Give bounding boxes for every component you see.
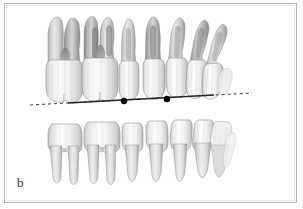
tooth-lower-canine — [170, 120, 192, 181]
tooth-upper-molar-1 — [46, 17, 83, 103]
tooth-upper-canine — [166, 18, 188, 98]
landmark-point-1 — [121, 98, 127, 104]
tooth-upper-premolar-2 — [143, 17, 165, 100]
tooth-lower-incisor-1 — [193, 120, 215, 178]
tooth-lower-premolar-1 — [122, 123, 143, 181]
mandibular-arch — [48, 104, 236, 185]
tooth-lower-molar-1 — [48, 104, 82, 185]
panel-label: b — [17, 176, 24, 189]
tooth-lower-molar-2 — [84, 122, 120, 185]
figure-panel: b — [0, 0, 303, 209]
landmark-point-2 — [164, 96, 170, 102]
tooth-upper-molar-2 — [82, 17, 118, 102]
dentition-illustration — [0, 0, 303, 209]
tooth-upper-premolar-1 — [119, 19, 139, 101]
tooth-lower-premolar-2 — [146, 121, 168, 181]
maxillary-arch — [46, 17, 232, 103]
